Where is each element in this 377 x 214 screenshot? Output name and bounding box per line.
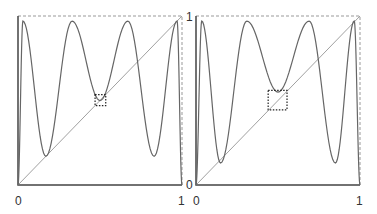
y-axis-label-0: 0 xyxy=(186,178,193,192)
x-axis-label-1: 1 xyxy=(178,194,185,208)
x-axis-label-1: 1 xyxy=(356,194,363,208)
x-axis-label-0: 0 xyxy=(15,194,22,208)
map-curve xyxy=(196,21,360,185)
figure-canvas: 011001 xyxy=(0,0,377,214)
y-axis-label-1: 1 xyxy=(186,10,193,24)
map-curve xyxy=(18,21,182,185)
identity-diagonal xyxy=(196,16,360,185)
zoom-box xyxy=(268,90,287,109)
x-axis-label-0: 0 xyxy=(193,194,200,208)
